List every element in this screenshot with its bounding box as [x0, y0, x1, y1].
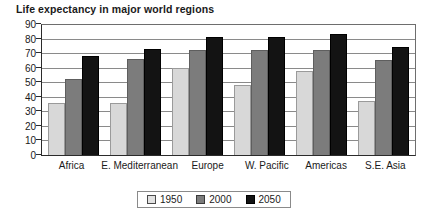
- bar: [110, 103, 127, 155]
- y-tick-label: 90: [25, 19, 36, 30]
- x-tick-label: Americas: [296, 160, 355, 171]
- bar: [48, 103, 65, 155]
- bar: [358, 101, 375, 155]
- bar: [172, 68, 189, 155]
- bar: [251, 50, 268, 155]
- legend-item[interactable]: 2050: [246, 194, 281, 205]
- bar-group: [104, 24, 166, 155]
- legend-label: 2000: [209, 194, 231, 205]
- x-tick-label: Europe: [178, 160, 237, 171]
- bar: [268, 37, 285, 155]
- x-tick-label: Africa: [42, 160, 101, 171]
- bar: [234, 85, 251, 155]
- legend-item[interactable]: 1950: [147, 194, 182, 205]
- bar: [330, 34, 347, 155]
- bar-group: [42, 24, 104, 155]
- legend-swatch-icon: [246, 195, 255, 204]
- life-expectancy-bar-chart: Life expectancy in major world regions 0…: [0, 0, 442, 221]
- y-tick-label: 0: [30, 150, 36, 161]
- bar: [206, 37, 223, 155]
- legend-swatch-icon: [147, 195, 156, 204]
- x-axis: AfricaE. MediterraneanEuropeW. PacificAm…: [42, 160, 415, 171]
- y-tick-label: 70: [25, 48, 36, 59]
- bar: [144, 49, 161, 155]
- legend-label: 2050: [259, 194, 281, 205]
- y-tick-label: 80: [25, 33, 36, 44]
- chart-title: Life expectancy in major world regions: [16, 3, 214, 15]
- legend-swatch-icon: [196, 195, 205, 204]
- legend-item[interactable]: 2000: [196, 194, 231, 205]
- bar: [189, 50, 206, 155]
- x-tick-label: W. Pacific: [237, 160, 296, 171]
- x-tick-label: E. Mediterranean: [101, 160, 178, 171]
- legend-label: 1950: [160, 194, 182, 205]
- bar-group: [166, 24, 228, 155]
- bar: [375, 60, 392, 155]
- bar-group: [291, 24, 353, 155]
- bar: [127, 59, 144, 155]
- y-tick-label: 40: [25, 91, 36, 102]
- y-tick-label: 30: [25, 106, 36, 117]
- bar: [313, 50, 330, 155]
- bar-group: [229, 24, 291, 155]
- bars-layer: [42, 24, 415, 155]
- bar: [82, 56, 99, 155]
- bar-group: [353, 24, 415, 155]
- bar: [296, 71, 313, 155]
- y-tick-label: 50: [25, 77, 36, 88]
- y-tick-label: 10: [25, 135, 36, 146]
- y-tick-label: 60: [25, 62, 36, 73]
- bar: [65, 79, 82, 155]
- chart-legend: 195020002050: [137, 191, 291, 208]
- x-tick-label: S.E. Asia: [356, 160, 415, 171]
- y-axis: 0102030405060708090: [0, 24, 36, 156]
- bar: [392, 47, 409, 155]
- y-tick-label: 20: [25, 120, 36, 131]
